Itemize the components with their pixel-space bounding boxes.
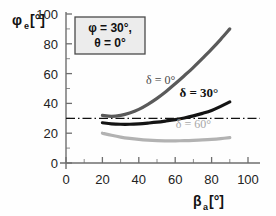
series-label-delta-60: δ = 60° bbox=[176, 117, 211, 131]
y-axis-title: φ e [°] bbox=[12, 12, 45, 31]
series-line-delta-60 bbox=[102, 133, 229, 141]
y-tick-label: 20 bbox=[44, 126, 58, 141]
annotation-line-2: θ = 0° bbox=[94, 36, 126, 50]
series-label-delta-0: δ = 0° bbox=[146, 73, 175, 87]
y-axis-title-unit: [°] bbox=[30, 12, 45, 28]
x-tick-label-group: 020406080100 bbox=[62, 172, 258, 187]
series-label-delta-30: δ = 30° bbox=[179, 85, 218, 100]
annotation-line-1: φ = 30°, bbox=[88, 21, 132, 35]
y-tick-label: 0 bbox=[51, 156, 58, 171]
y-axis-title-subscript: e bbox=[24, 21, 29, 31]
y-axis-title-symbol: φ bbox=[12, 12, 22, 28]
x-tick-label: 40 bbox=[132, 172, 146, 187]
y-tick-label: 60 bbox=[44, 67, 58, 82]
x-axis-title-symbol: β bbox=[193, 193, 202, 209]
x-axis-title-unit: [°] bbox=[209, 193, 224, 209]
x-tick-label: 80 bbox=[204, 172, 218, 187]
chart-plot-svg: 020406080100 020406080100 δ = 0° δ = 30°… bbox=[0, 0, 276, 216]
y-tick-label-group: 020406080100 bbox=[36, 7, 58, 171]
x-tick-label: 0 bbox=[62, 172, 69, 187]
y-tick-label: 40 bbox=[44, 96, 58, 111]
x-tick-label: 60 bbox=[168, 172, 182, 187]
annotation-box: φ = 30°, θ = 0° bbox=[75, 17, 145, 54]
x-tick-label: 100 bbox=[237, 172, 259, 187]
chart-figure: 020406080100 020406080100 δ = 0° δ = 30°… bbox=[0, 0, 276, 216]
x-tick-label: 20 bbox=[95, 172, 109, 187]
y-tick-label: 80 bbox=[44, 37, 58, 52]
x-axis-title: β a [°] bbox=[193, 193, 224, 212]
